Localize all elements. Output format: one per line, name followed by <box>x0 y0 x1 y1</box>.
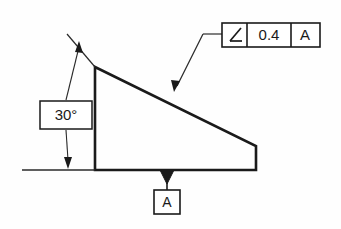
feature-control-frame-datum-reference: A <box>300 26 310 43</box>
angle-dimension-value: 30° <box>55 106 78 123</box>
drawing-vector-layer: 30° 0.4 A A <box>0 0 341 229</box>
engineering-drawing-canvas: 30° 0.4 A A <box>0 0 341 229</box>
angle-lower-arrowhead-icon <box>64 157 72 169</box>
feature-control-frame-tolerance-value: 0.4 <box>259 26 280 43</box>
angle-upper-arrowhead-icon <box>75 41 83 53</box>
datum-label-letter: A <box>162 194 172 210</box>
angle-lower-extension-leader <box>66 130 68 160</box>
angularity-leader-arrowhead-icon <box>171 80 180 92</box>
angularity-leader-diagonal-segment <box>177 34 203 86</box>
angle-upper-extension-leader <box>66 47 79 100</box>
datum-triangle-filled-icon <box>160 170 174 184</box>
